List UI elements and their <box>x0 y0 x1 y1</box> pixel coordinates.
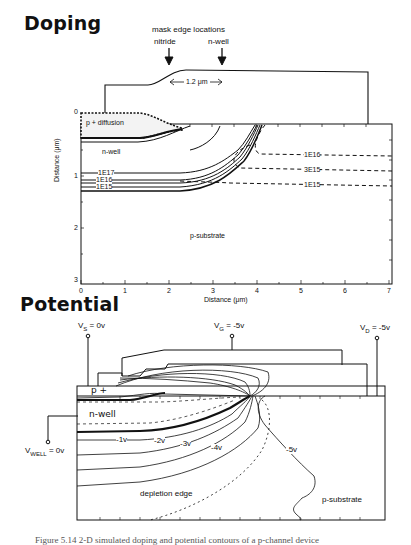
region-p-substrate-potential: p-substrate <box>322 496 362 504</box>
figure-caption: Figure 5.14 2-D simulated doping and pot… <box>35 535 319 545</box>
contour-minus5v: -5v <box>286 446 297 454</box>
contour-minus4v: -4v <box>211 444 222 452</box>
contour-minus2v: -2v <box>154 437 165 445</box>
contour-minus3v: -3v <box>180 440 191 448</box>
region-n-well-potential: n-well <box>89 410 116 419</box>
region-p-plus: p + <box>91 386 107 395</box>
contour-minus1v: -1v <box>116 436 127 444</box>
depletion-edge-label: depletion edge <box>140 490 193 498</box>
